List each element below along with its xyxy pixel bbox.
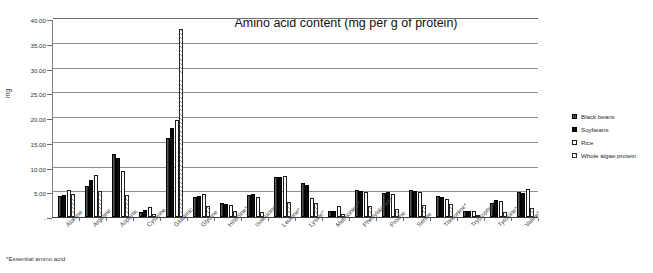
x-axis-tick-mark <box>295 218 296 221</box>
bar-group <box>458 20 485 217</box>
x-axis-tick-mark <box>241 218 242 221</box>
bar-group <box>512 20 539 217</box>
y-axis-tick-label: 5.00 <box>34 190 46 197</box>
chart-legend: Black beansSoybeansRiceWhole algae prote… <box>572 110 652 162</box>
plot-area <box>52 20 538 218</box>
bar-group <box>215 20 242 217</box>
footnote: *Essential amino acid <box>6 255 65 262</box>
legend-label: Whole algae protein <box>581 152 636 159</box>
x-axis-tick-mark <box>322 218 323 221</box>
bar-group <box>377 20 404 217</box>
x-axis-tick-mark <box>376 218 377 221</box>
bar-group <box>161 20 188 217</box>
y-axis-tick-label: 20.00 <box>31 116 46 123</box>
x-axis-tick-mark <box>268 218 269 221</box>
x-axis-tick-mark <box>349 218 350 221</box>
bar-group <box>350 20 377 217</box>
x-axis-tick-mark <box>106 218 107 221</box>
bar-group <box>188 20 215 217</box>
y-axis-tick-label: 40.00 <box>31 17 46 24</box>
y-axis-tick-label: 25.00 <box>31 91 46 98</box>
bar-groups <box>53 20 538 217</box>
y-axis-tick-label: 15.00 <box>31 140 46 147</box>
bar-group <box>323 20 350 217</box>
legend-label: Rice <box>581 139 593 146</box>
legend-item[interactable]: Rice <box>572 136 652 149</box>
x-axis-tick-mark <box>484 218 485 221</box>
x-axis-tick-mark <box>430 218 431 221</box>
legend-label: Soybeans <box>581 126 609 133</box>
x-axis-tick-mark <box>538 218 539 221</box>
y-axis-tick-label: 10.00 <box>31 165 46 172</box>
x-axis-tick-mark <box>133 218 134 221</box>
x-axis-tick-mark <box>187 218 188 221</box>
x-axis-tick-mark <box>511 218 512 221</box>
y-axis: -5.0010.0015.0020.0025.0030.0035.0040.00 <box>0 0 52 218</box>
bar <box>179 29 183 217</box>
bar-group <box>134 20 161 217</box>
bar-group <box>296 20 323 217</box>
bar-group <box>107 20 134 217</box>
y-axis-tick-label: 30.00 <box>31 66 46 73</box>
legend-swatch-icon <box>572 153 577 158</box>
x-axis-tick-mark <box>403 218 404 221</box>
legend-label: Black beans <box>581 113 615 120</box>
y-axis-tick-label: 35.00 <box>31 41 46 48</box>
x-axis-tick-mark <box>79 218 80 221</box>
x-axis-tick-mark <box>214 218 215 221</box>
bar-group <box>485 20 512 217</box>
bar-group <box>53 20 80 217</box>
legend-item[interactable]: Soybeans <box>572 123 652 136</box>
bar-group <box>80 20 107 217</box>
bar-group <box>269 20 296 217</box>
bar-group <box>404 20 431 217</box>
legend-swatch-icon <box>572 127 577 132</box>
y-axis-tick-label: - <box>44 215 46 222</box>
x-axis-labels: AlanineArginineAsparticCysteineGlutamicG… <box>52 219 538 269</box>
bar-group <box>431 20 458 217</box>
gridline <box>53 18 538 19</box>
bar-group <box>242 20 269 217</box>
legend-item[interactable]: Whole algae protein <box>572 149 652 162</box>
x-axis-tick-mark <box>457 218 458 221</box>
legend-swatch-icon <box>572 140 577 145</box>
chart-container: Amino acid content (mg per g of protein)… <box>0 0 653 273</box>
legend-item[interactable]: Black beans <box>572 110 652 123</box>
x-axis-tick-mark <box>160 218 161 221</box>
legend-swatch-icon <box>572 114 577 119</box>
